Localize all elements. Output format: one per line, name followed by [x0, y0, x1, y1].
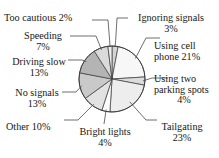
leader-tailgating — [130, 102, 157, 120]
pie-slice — [112, 47, 145, 79]
slice-label-too-cautious-text: Too cautious 2% — [4, 13, 72, 24]
slice-label-using-two-parking-spots: Using two parking spots 4% — [154, 74, 219, 106]
slice-label-bright-lights-name: Bright lights — [74, 127, 136, 138]
slice-label-using-cell-phone-value: phone 21% — [154, 52, 218, 63]
slice-label-tailgating-value: 23% — [152, 133, 212, 144]
slice-label-bright-lights-value: 4% — [74, 138, 136, 149]
slice-label-driving-slow: Driving slow 13% — [2, 57, 76, 78]
slice-label-no-signals: No signals 13% — [2, 88, 72, 109]
leader-speeding — [70, 36, 102, 50]
slice-label-speeding: Speeding 7% — [12, 31, 74, 52]
slice-label-ignoring-signals-name: Ignoring signals — [124, 13, 218, 24]
slice-label-no-signals-name: No signals — [2, 88, 72, 99]
slice-label-ignoring-signals-value: 3% — [124, 24, 218, 35]
slice-label-speeding-value: 7% — [12, 42, 74, 53]
slice-label-parking-value: 4% — [154, 95, 214, 106]
leader-too-cautious — [92, 20, 110, 47]
slice-label-bright-lights: Bright lights 4% — [74, 127, 136, 148]
slice-label-driving-slow-name: Driving slow — [2, 57, 76, 68]
slice-label-using-cell-phone-name: Using cell — [154, 41, 218, 52]
pie-slices — [79, 46, 145, 112]
slice-label-no-signals-value: 13% — [2, 99, 72, 110]
slice-label-parking-line1: Using two — [154, 74, 219, 85]
slice-label-tailgating-name: Tailgating — [152, 122, 212, 133]
slice-label-using-cell-phone: Using cell phone 21% — [154, 41, 218, 62]
slice-label-other-text: Other 10% — [6, 122, 50, 133]
slice-label-speeding-name: Speeding — [12, 31, 74, 42]
pie-chart-figure: Too cautious 2% Speeding 7% Driving slow… — [0, 0, 219, 158]
slice-label-driving-slow-value: 13% — [2, 68, 76, 79]
pie-slice — [110, 79, 144, 112]
slice-label-other: Other 10% — [6, 122, 50, 133]
slice-label-tailgating: Tailgating 23% — [152, 122, 212, 143]
slice-label-ignoring-signals: Ignoring signals 3% — [124, 13, 218, 34]
slice-label-too-cautious: Too cautious 2% — [4, 13, 72, 24]
